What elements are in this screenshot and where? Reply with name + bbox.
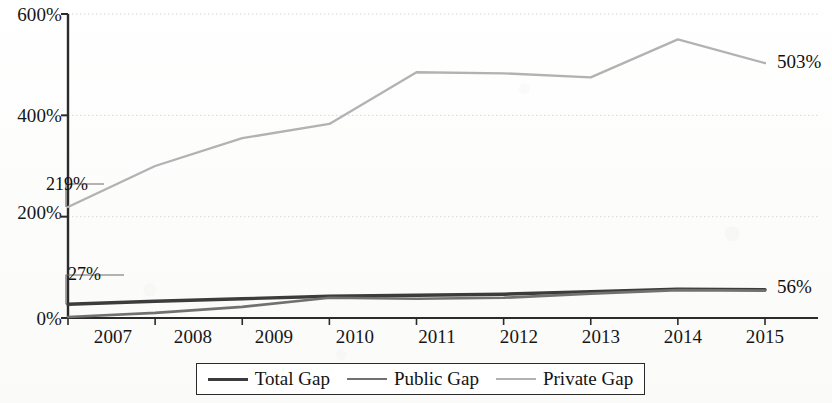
legend-swatch-private-gap [496,378,536,380]
annotation-leader-lines [66,184,124,304]
x-tick-label-2013: 2013 [561,326,641,348]
annotation-total-gap-end: 56% [777,276,812,298]
line-chart: 600% 400% 200% 0% 2007 2008 2009 2010 20… [0,0,832,403]
y-tick-label-0: 0% [0,308,62,330]
y-tick-label-600: 600% [0,4,62,26]
legend-item-private-gap[interactable]: Private Gap [496,368,633,390]
legend-item-public-gap[interactable]: Public Gap [347,368,479,390]
chart-legend: Total Gap Public Gap Private Gap [196,363,645,395]
x-tick-label-2014: 2014 [643,326,723,348]
x-tick-label-2012: 2012 [479,326,559,348]
series-line-private-gap [68,39,765,207]
legend-item-total-gap[interactable]: Total Gap [208,368,330,390]
x-tick-label-2008: 2008 [153,326,233,348]
legend-swatch-total-gap [208,378,248,381]
axis-ticks [61,14,765,325]
axis-lines [68,14,818,318]
y-tick-label-400: 400% [0,105,62,127]
x-tick-label-2010: 2010 [315,326,395,348]
legend-label-private-gap: Private Gap [543,368,633,390]
y-tick-label-200: 200% [0,202,62,224]
legend-label-total-gap: Total Gap [255,368,330,390]
data-series [68,39,765,317]
gridlines [68,14,818,217]
x-tick-label-2009: 2009 [234,326,314,348]
legend-label-public-gap: Public Gap [394,368,479,390]
x-tick-label-2011: 2011 [397,326,477,348]
x-tick-label-2015: 2015 [725,326,805,348]
legend-swatch-public-gap [347,378,387,380]
annotation-private-gap-start: 219% [46,174,88,195]
annotation-total-gap-start: 27% [68,264,101,285]
x-tick-label-2007: 2007 [73,326,153,348]
annotation-private-gap-end: 503% [777,51,821,73]
